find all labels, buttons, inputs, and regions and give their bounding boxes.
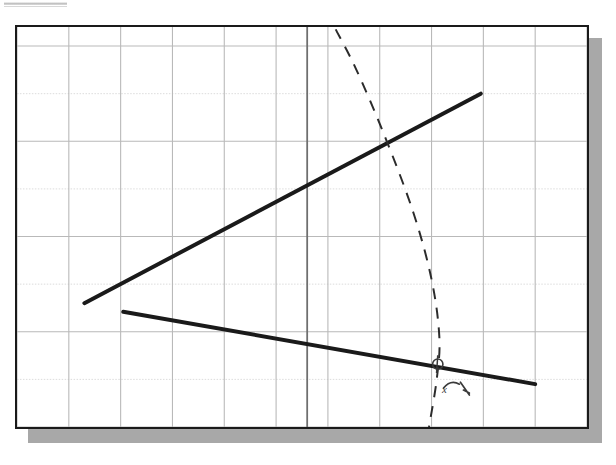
figure-page: x (0, 0, 616, 465)
annotation-intersection-circle (433, 355, 443, 373)
annotation-x-mark-label: x (441, 383, 447, 395)
plot-panel: x (15, 25, 589, 429)
scan-artifact-underline (4, 6, 67, 7)
scan-artifact-bar (4, 2, 67, 5)
handwritten-annotation-layer: x (17, 27, 587, 427)
annotation-curved-arrow (444, 382, 470, 395)
